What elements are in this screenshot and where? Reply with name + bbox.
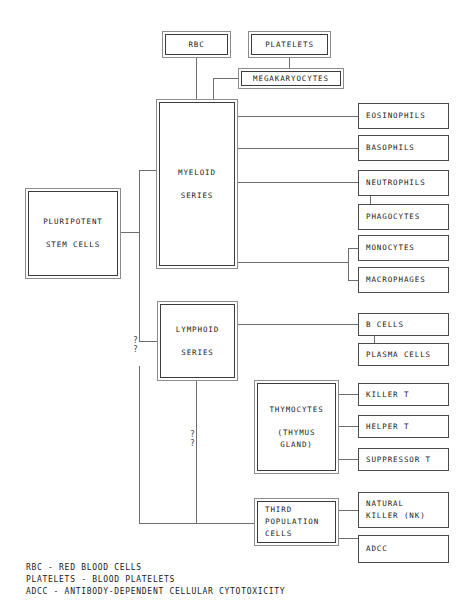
connector-stemcells-trunk [139,170,140,342]
connector-myeloid-to-neutrophils [237,182,358,183]
node-adcc-label: ADCC [359,543,388,555]
node-lymphoid-series[interactable]: LYMPHOID SERIES [157,301,238,381]
node-macrophages[interactable]: MACROPHAGES [358,267,449,293]
connector-lymphoid-to-bcells [238,324,358,325]
connector-myeloid-to-monocyte-group [237,262,348,263]
node-platelets-label: PLATELETS [265,39,314,51]
connector-monocyte-group-split [348,248,349,280]
connector-trunk-to-lymphoid [139,341,158,342]
node-rbc[interactable]: RBC [162,31,231,58]
connector-trunk-to-thirdpop [139,366,140,524]
connector-split-to-macrophages [348,280,358,281]
node-pluripotent-stem-cells-inner: PLURIPOTENT STEM CELLS [28,191,118,276]
node-basophils-label: BASOPHILS [359,142,415,154]
node-neutrophils-label: NEUTROPHILS [359,177,426,189]
node-thymocytes-inner: THYMOCYTES (THYMUS GLAND) [257,383,336,471]
node-suppressor-t-label: SUPPRESSOR T [359,454,431,466]
node-myeloid-line2: SERIES [181,190,214,202]
connector-thirdpop-to-adcc [338,538,358,539]
legend-line-rbc: RBC - RED BLOOD CELLS [26,562,142,574]
connector-thymocytes-to-helpert [338,426,358,427]
node-thirdpop-line2: POPULATION [258,516,319,528]
node-killer-t-label: KILLER T [359,389,409,401]
connector-lymphoid-to-thirdpop [196,380,197,524]
node-megakaryocytes-label: MEGAKARYOCYTES [253,73,329,85]
node-killer-t[interactable]: KILLER T [358,383,449,406]
connector-megakaryocytes-horizontal [213,78,240,79]
connector-thymocytes-to-killert [338,394,358,395]
question-mark-3: ? [190,430,195,439]
uncertain-marker-stem-to-thirdpop: ? ? [133,336,138,354]
node-myeloid-series-inner: MYELOID SERIES [159,102,235,266]
connector-thirdpop-to-naturalkiller [338,510,358,511]
node-thymocytes-line1: THYMOCYTES [269,404,323,416]
node-plasma-cells-label: PLASMA CELLS [359,349,431,361]
connector-myeloid-to-rbc [196,57,197,100]
node-basophils[interactable]: BASOPHILS [358,135,449,161]
connector-trunk-to-myeloid [139,170,157,171]
connector-megakaryocytes-elbow [213,78,214,100]
node-thirdpop-line1: THIRD [258,504,292,516]
node-helper-t[interactable]: HELPER T [358,415,449,438]
node-eosinophils[interactable]: EOSINOPHILS [358,103,449,129]
question-mark-1: ? [133,336,138,345]
question-mark-2: ? [133,345,138,354]
connector-lymphoid-thirdpop-horizontal [196,523,255,524]
node-natural-killer-line1: NATURAL [359,498,404,510]
legend-line-platelets: PLATELETS - BLOOD PLATELETS [26,574,175,586]
connector-stemcells-stub [120,232,140,233]
uncertain-marker-lymphoid-to-thirdpop: ? ? [190,430,195,448]
node-megakaryocytes[interactable]: MEGAKARYOCYTES [238,68,344,89]
node-thymocytes-line2: (THYMUS [278,427,316,439]
node-macrophages-label: MACROPHAGES [359,274,426,286]
node-pluripotent-line2: STEM CELLS [46,239,100,251]
node-phagocytes-label: PHAGOCYTES [359,211,420,223]
node-third-population-cells[interactable]: THIRD POPULATION CELLS [254,498,339,546]
node-helper-t-label: HELPER T [359,421,409,433]
node-b-cells-label: B CELLS [359,319,404,331]
node-pluripotent-stem-cells[interactable]: PLURIPOTENT STEM CELLS [25,188,121,279]
node-natural-killer-line2: KILLER (NK) [359,510,426,522]
blood-cell-lineage-diagram: ? ? ? ? RBC PLATELETS MEGAKARYOCYTES PLU… [0,0,472,603]
node-rbc-label: RBC [188,39,204,51]
node-platelets[interactable]: PLATELETS [248,31,331,58]
node-myeloid-line1: MYELOID [178,167,216,179]
node-thymocytes[interactable]: THYMOCYTES (THYMUS GLAND) [254,380,339,474]
node-b-cells[interactable]: B CELLS [358,313,449,336]
connector-thymocytes-to-suppressort [338,459,358,460]
node-lymphoid-line1: LYMPHOID [176,324,219,336]
node-phagocytes[interactable]: PHAGOCYTES [358,204,449,230]
node-plasma-cells[interactable]: PLASMA CELLS [358,343,449,366]
node-thirdpop-line3: CELLS [258,528,292,540]
legend-line-adcc: ADCC - ANTIBODY-DEPENDENT CELLULAR CYTOT… [26,586,285,598]
node-lymphoid-line2: SERIES [181,347,214,359]
node-megakaryocytes-inner: MEGAKARYOCYTES [241,71,341,86]
connector-myeloid-to-eosinophils [237,116,358,117]
connector-split-to-monocytes [348,248,358,249]
node-lymphoid-series-inner: LYMPHOID SERIES [160,304,235,378]
node-rbc-inner: RBC [165,34,228,55]
node-suppressor-t[interactable]: SUPPRESSOR T [358,448,449,471]
node-third-population-cells-inner: THIRD POPULATION CELLS [257,501,336,543]
node-eosinophils-label: EOSINOPHILS [359,110,426,122]
node-natural-killer[interactable]: NATURAL KILLER (NK) [358,492,449,528]
connector-myeloid-to-basophils [237,148,358,149]
question-mark-4: ? [190,439,195,448]
node-thymocytes-line3: GLAND) [280,439,313,451]
node-neutrophils[interactable]: NEUTROPHILS [358,170,449,196]
node-myeloid-series[interactable]: MYELOID SERIES [156,99,238,269]
node-monocytes[interactable]: MONOCYTES [358,235,449,261]
node-adcc[interactable]: ADCC [358,535,449,563]
node-pluripotent-line1: PLURIPOTENT [43,216,103,228]
node-platelets-inner: PLATELETS [251,34,328,55]
node-monocytes-label: MONOCYTES [359,242,415,254]
